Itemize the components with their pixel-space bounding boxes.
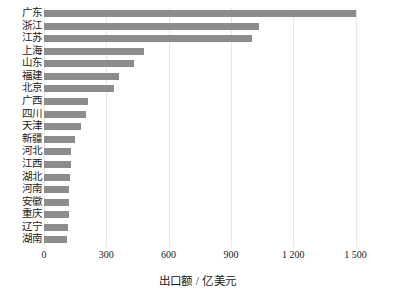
bar-fill: [44, 35, 252, 42]
category-label: 广西: [22, 96, 42, 107]
bar: [44, 224, 68, 231]
bar-fill: [44, 136, 75, 143]
category-label: 河南: [22, 184, 42, 195]
bar-fill: [44, 85, 114, 92]
category-label: 重庆: [22, 209, 42, 220]
bar-fill: [44, 174, 70, 181]
category-label: 辽宁: [22, 222, 42, 233]
bar: [44, 161, 71, 168]
x-tick-label: 900: [223, 249, 238, 261]
bar-fill: [44, 123, 81, 130]
x-axis-title: 出口额 / 亿美元: [0, 272, 395, 288]
bar-fill: [44, 10, 356, 17]
gridline-900: [231, 8, 232, 247]
x-tick-label: 1 200: [282, 249, 305, 261]
horizontal-bar-chart: 广东浙江江苏上海山东福建北京广西四川天津新疆河北江西湖北河南安徽重庆辽宁湖南 0…: [0, 0, 395, 300]
x-tick-label: 300: [99, 249, 114, 261]
category-label: 江苏: [22, 33, 42, 44]
value-axis-ticks: 03006009001 2001 500: [0, 249, 395, 265]
bar-fill: [44, 148, 71, 155]
bar: [44, 174, 70, 181]
bar: [44, 123, 81, 130]
bar-fill: [44, 199, 69, 206]
bar: [44, 111, 86, 118]
bar: [44, 199, 69, 206]
bar: [44, 10, 356, 17]
gridline-300: [106, 8, 107, 247]
bar: [44, 23, 259, 30]
bar: [44, 186, 69, 193]
category-label: 上海: [22, 46, 42, 57]
bar-fill: [44, 224, 68, 231]
bar: [44, 73, 119, 80]
category-label: 北京: [22, 83, 42, 94]
bar-fill: [44, 48, 144, 55]
category-label: 新疆: [22, 134, 42, 145]
x-tick-label: 1 500: [344, 249, 367, 261]
bar-fill: [44, 98, 88, 105]
bar: [44, 48, 144, 55]
category-label: 山东: [22, 58, 42, 69]
x-tick-label: 600: [161, 249, 176, 261]
bar-fill: [44, 211, 69, 218]
category-axis-labels: 广东浙江江苏上海山东福建北京广西四川天津新疆河北江西湖北河南安徽重庆辽宁湖南: [0, 8, 42, 247]
category-label: 浙江: [22, 21, 42, 32]
plot-area: [44, 8, 368, 247]
bar: [44, 85, 114, 92]
category-label: 四川: [22, 109, 42, 120]
category-label: 福建: [22, 71, 42, 82]
category-label: 广东: [22, 8, 42, 19]
bar: [44, 148, 71, 155]
gridline-1200: [293, 8, 294, 247]
bar: [44, 60, 134, 67]
bar-fill: [44, 111, 86, 118]
bar-fill: [44, 23, 259, 30]
x-tick-label: 0: [42, 249, 47, 261]
bar-fill: [44, 60, 134, 67]
bar: [44, 236, 67, 243]
category-label: 河北: [22, 146, 42, 157]
bar: [44, 98, 88, 105]
bar-fill: [44, 236, 67, 243]
bar: [44, 211, 69, 218]
category-label: 天津: [22, 121, 42, 132]
bar-fill: [44, 161, 71, 168]
bar-fill: [44, 186, 69, 193]
category-label: 江西: [22, 159, 42, 170]
bar-fill: [44, 73, 119, 80]
category-label: 安徽: [22, 197, 42, 208]
gridline-600: [169, 8, 170, 247]
bar: [44, 35, 252, 42]
gridline-1500: [356, 8, 357, 247]
category-label: 湖北: [22, 172, 42, 183]
bar: [44, 136, 75, 143]
category-label: 湖南: [22, 234, 42, 245]
